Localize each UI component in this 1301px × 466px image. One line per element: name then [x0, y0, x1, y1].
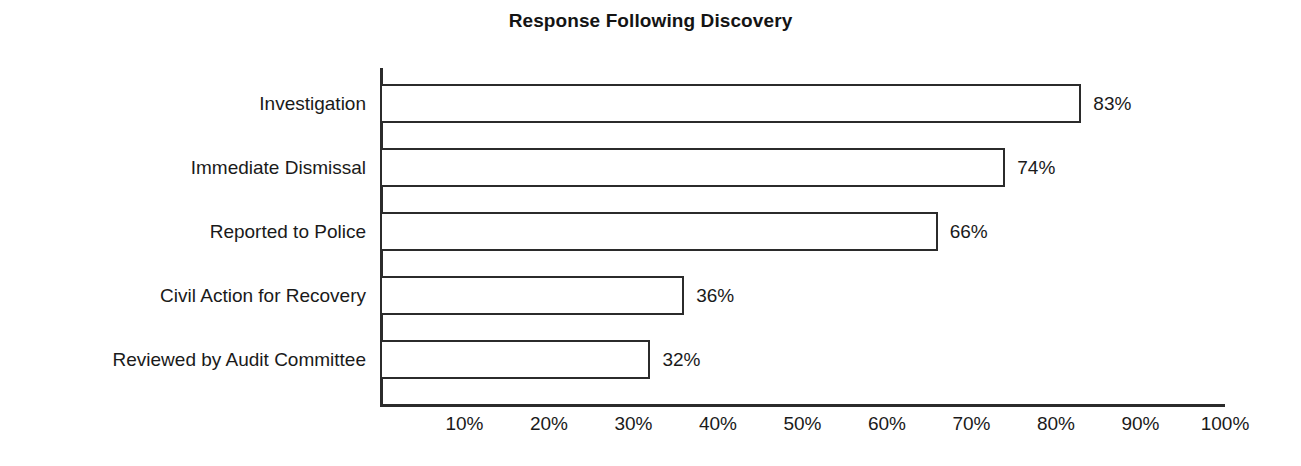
- tick-label: 60%: [868, 410, 906, 438]
- tick-label: 90%: [1121, 410, 1159, 438]
- bar-value-label: 32%: [650, 349, 700, 371]
- bar-row: 66%: [380, 212, 1225, 251]
- bar[interactable]: [380, 340, 650, 379]
- bar-value-label: 66%: [938, 221, 988, 243]
- bar-value-label: 74%: [1005, 157, 1055, 179]
- bar[interactable]: [380, 276, 684, 315]
- bar-row: 83%: [380, 84, 1225, 123]
- bar-row: 74%: [380, 148, 1225, 187]
- chart-title: Response Following Discovery: [0, 10, 1301, 32]
- chart-container: Response Following Discovery Investigati…: [0, 0, 1301, 466]
- bar[interactable]: [380, 148, 1005, 187]
- category-axis-labels: InvestigationImmediate DismissalReported…: [0, 68, 366, 404]
- category-label: Reviewed by Audit Committee: [113, 340, 366, 379]
- bar[interactable]: [380, 212, 938, 251]
- bar-value-label: 83%: [1081, 93, 1131, 115]
- bar[interactable]: [380, 84, 1081, 123]
- value-axis-tick-labels: 10%20%30%40%50%60%70%80%90%100%: [380, 410, 1225, 444]
- tick-label: 100%: [1201, 410, 1250, 438]
- tick-label: 80%: [1037, 410, 1075, 438]
- category-label: Investigation: [259, 84, 366, 123]
- tick-label: 20%: [530, 410, 568, 438]
- tick-label: 70%: [952, 410, 990, 438]
- category-label: Reported to Police: [210, 212, 366, 251]
- tick-label: 10%: [445, 410, 483, 438]
- bar-row: 32%: [380, 340, 1225, 379]
- category-label: Immediate Dismissal: [191, 148, 366, 187]
- tick-label: 40%: [699, 410, 737, 438]
- plot-area: 83%74%66%36%32%: [380, 68, 1225, 404]
- tick-label: 30%: [614, 410, 652, 438]
- bar-row: 36%: [380, 276, 1225, 315]
- value-axis-line: [380, 404, 1225, 407]
- tick-label: 50%: [783, 410, 821, 438]
- bar-value-label: 36%: [684, 285, 734, 307]
- category-label: Civil Action for Recovery: [160, 276, 366, 315]
